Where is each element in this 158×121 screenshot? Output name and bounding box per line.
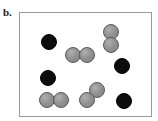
particle-gray — [53, 92, 69, 108]
particle-black — [114, 58, 130, 74]
panel-label: b. — [3, 6, 12, 18]
particle-black — [116, 93, 132, 109]
particle-black — [41, 34, 57, 50]
particle-gray — [79, 92, 95, 108]
figure-panel-b: b. — [0, 0, 158, 121]
reaction-vessel-box — [19, 12, 152, 117]
particle-gray — [79, 47, 95, 63]
particle-gray — [103, 37, 119, 53]
particle-black — [40, 70, 56, 86]
